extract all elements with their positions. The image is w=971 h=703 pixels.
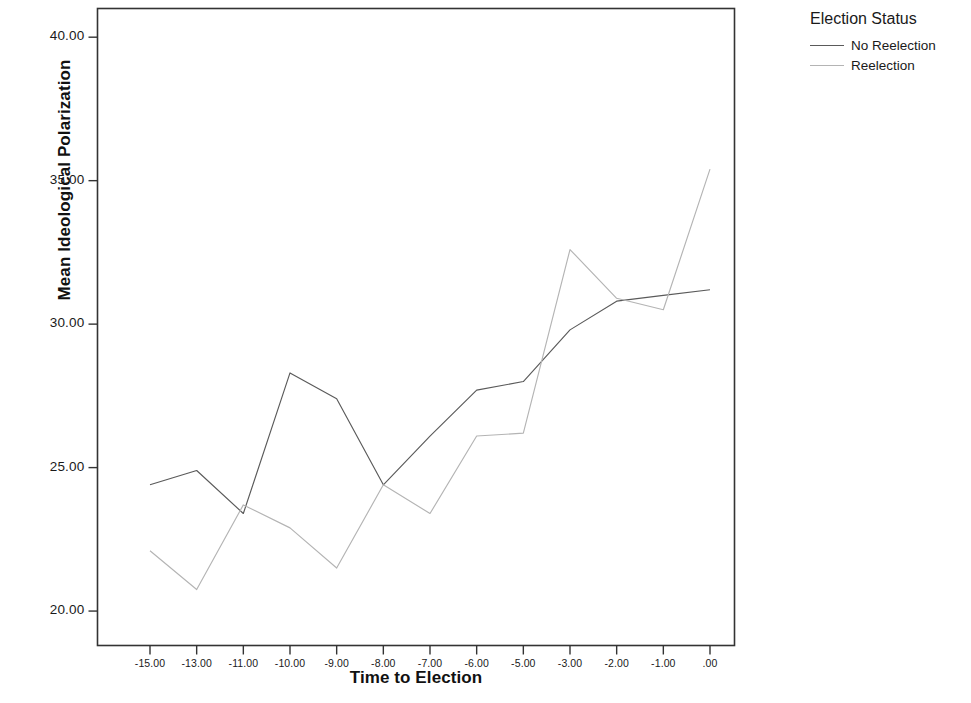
legend-label-no-reelection: No Reelection <box>851 38 936 53</box>
legend-swatch-no-reelection <box>810 45 844 46</box>
legend-entry-reelection: Reelection <box>810 58 970 73</box>
legend-swatch-reelection <box>810 65 844 66</box>
series-line-reelection <box>150 169 710 589</box>
x-axis-title: Time to Election <box>97 668 735 688</box>
x-axis-tick-label: .00 <box>683 657 737 669</box>
legend-title: Election Status <box>810 10 970 28</box>
plot-area <box>0 0 971 703</box>
data-series-lines <box>150 169 710 589</box>
legend-label-reelection: Reelection <box>851 58 915 73</box>
series-line-no-reelection <box>150 290 710 514</box>
y-axis-ticks <box>89 37 98 611</box>
x-axis-ticks <box>150 646 710 655</box>
legend: Election Status No Reelection Reelection <box>810 10 970 78</box>
legend-entry-no-reelection: No Reelection <box>810 38 970 53</box>
chart-figure: Mean Ideological Polarization 20.0025.00… <box>0 0 971 703</box>
plot-frame <box>98 9 735 646</box>
